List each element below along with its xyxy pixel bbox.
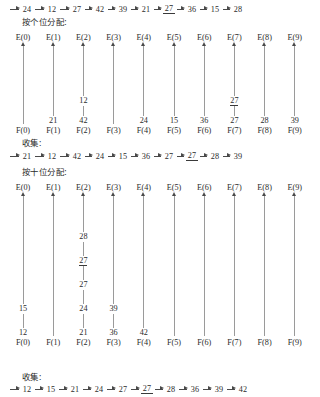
list-node-value: 21: [69, 385, 81, 394]
bucket-column: E(2)1242F(2): [68, 33, 98, 136]
figure-canvas: 24122742392127361528 按个位分配: E(0)F(0)E(1)…: [0, 0, 320, 397]
bucket-node-value: 27: [219, 96, 249, 106]
bucket-column: E(3)3936F(3): [99, 183, 129, 348]
bucket-column: E(4)24F(4): [129, 33, 159, 136]
link-arrow: [107, 389, 115, 390]
list-node-value: 24: [93, 385, 105, 394]
bucket-chain-line: [83, 46, 84, 124]
caption-collect-1: 收集:: [22, 136, 42, 148]
bucket-column: E(2)2827272421F(2): [68, 183, 98, 348]
bucket-tail-label: F(9): [280, 338, 310, 347]
list-node-value: 28: [232, 5, 244, 14]
bucket-column: E(3)F(3): [99, 33, 129, 136]
bucket-chain-line: [294, 196, 295, 336]
list-node-value: 42: [94, 5, 106, 14]
link-arrow: [108, 9, 115, 10]
list-node-value: 36: [189, 385, 201, 394]
link-arrow: [10, 389, 19, 390]
bucket-chain-line: [53, 46, 54, 124]
link-arrow: [227, 389, 235, 390]
list-node-value: 39: [232, 152, 244, 161]
link-arrow: [85, 156, 92, 157]
bucket-node-value: 21: [38, 116, 68, 126]
bucket-column: E(1)21F(1): [38, 33, 68, 136]
bucket-node-value: 27: [219, 116, 249, 126]
link-arrow: [203, 389, 211, 390]
list-node-value: 28: [209, 152, 221, 161]
link-arrow: [177, 9, 184, 10]
list-node-value: 27: [186, 151, 198, 161]
bucket-chain-line: [23, 196, 24, 336]
bucket-chain-line: [174, 46, 175, 124]
list-node-value: 21: [140, 5, 152, 14]
bucket-chain-line: [264, 46, 265, 124]
bucket-column: E(1)F(1): [38, 183, 68, 348]
bucket-tail-label: F(2): [68, 126, 98, 135]
bucket-node-value: 28: [250, 116, 280, 126]
bucket-node-value: 39: [99, 304, 129, 314]
list-node-value: 39: [117, 5, 129, 14]
bucket-tail-label: F(0): [8, 338, 38, 347]
link-arrow: [10, 9, 19, 10]
bucket-chain-line: [294, 46, 295, 124]
bucket-tail-label: F(5): [159, 126, 189, 135]
bucket-chain-line: [234, 196, 235, 336]
after-ones-pass-sequence: 21124224153627272839: [8, 151, 244, 161]
bucket-tail-label: F(4): [129, 338, 159, 347]
bucket-node-value: 24: [129, 116, 159, 126]
bucket-chain-line: [143, 196, 144, 336]
link-arrow: [177, 156, 184, 157]
link-arrow: [35, 9, 44, 10]
list-node-value: 28: [165, 385, 177, 394]
bucket-node-value: 21: [68, 328, 98, 338]
bucket-node-value: 42: [129, 328, 159, 338]
bucket-node-value: 42: [68, 116, 98, 126]
bucket-tail-label: F(6): [189, 338, 219, 347]
link-arrow: [131, 9, 138, 10]
bucket-tail-label: F(1): [38, 338, 68, 347]
link-arrow: [59, 389, 67, 390]
bucket-node-value: 27: [68, 280, 98, 290]
bucket-node-value: 39: [280, 116, 310, 126]
link-arrow: [60, 9, 69, 10]
link-arrow: [223, 9, 230, 10]
list-node-value: 27: [163, 4, 175, 14]
link-arrow: [83, 389, 91, 390]
link-arrow: [131, 389, 139, 390]
bucket-node-value: 15: [159, 116, 189, 126]
bucket-tail-label: F(8): [250, 338, 280, 347]
initial-list-sequence: 24122742392127361528: [8, 4, 244, 14]
bucket-column: E(6)36F(6): [189, 33, 219, 136]
after-tens-pass-sequence: 12152124272728363942: [8, 384, 249, 394]
link-arrow: [223, 156, 230, 157]
link-arrow: [10, 156, 19, 157]
caption-collect-2: 收集:: [22, 370, 42, 382]
bucket-chain-line: [53, 196, 54, 336]
bucket-node-value: 24: [68, 304, 98, 314]
bucket-tail-label: F(3): [99, 338, 129, 347]
bucket-column: E(9)F(9): [280, 183, 310, 348]
bucket-node-value: 36: [189, 116, 219, 126]
bucket-tail-label: F(6): [189, 126, 219, 135]
link-arrow: [155, 389, 163, 390]
list-node-value: 42: [237, 385, 249, 394]
bucket-chain-line: [83, 196, 84, 336]
bucket-node-value: 12: [8, 328, 38, 338]
list-node-value: 12: [21, 385, 33, 394]
bucket-tail-label: F(9): [280, 126, 310, 135]
list-node-value: 21: [21, 152, 33, 161]
bucket-column: E(0)F(0): [8, 33, 38, 136]
caption-distribute-tens: 按十位分配:: [22, 165, 67, 177]
list-node-value: 15: [117, 152, 129, 161]
bucket-node-value: 36: [99, 328, 129, 338]
bucket-node-value: 12: [68, 96, 98, 106]
link-arrow: [200, 9, 207, 10]
link-arrow: [154, 156, 161, 157]
list-node-value: 27: [141, 384, 153, 394]
link-arrow: [154, 9, 161, 10]
list-node-value: 24: [94, 152, 106, 161]
bucket-chain-line: [234, 46, 235, 124]
list-node-value: 12: [46, 152, 58, 161]
list-node-value: 12: [46, 5, 58, 14]
bucket-node-value: 27: [68, 256, 98, 266]
